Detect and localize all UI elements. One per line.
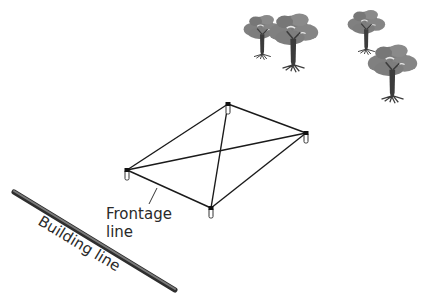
stake-top-icon [226,102,231,114]
tree-icon [368,45,417,104]
stake-right-icon [304,131,309,143]
site-layout-diagram: Frontage line Building line [0,0,428,303]
stakes-group [125,102,309,218]
string-line-top-right [228,104,306,133]
stake-left-icon [125,168,130,180]
string-lines [127,104,306,208]
frontage-label: Frontage [106,205,172,223]
trees-group [244,10,418,103]
diagonal-top-bottom [211,104,228,208]
diagonal-left-right [127,133,306,170]
stake-bottom-icon [209,206,214,218]
frontage-leader-line [149,188,157,204]
frontage-line [127,170,211,208]
frontage-label-line2: line [106,223,133,241]
string-line-right-bottom [211,133,306,208]
tree-icon [269,14,318,73]
